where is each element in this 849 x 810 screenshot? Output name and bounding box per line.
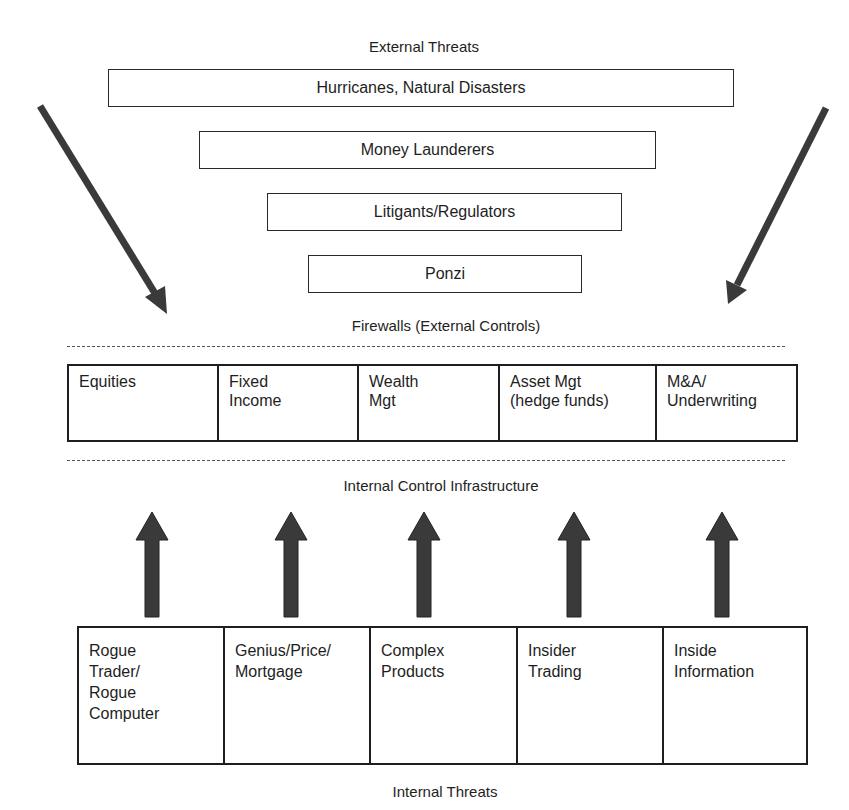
up-arrow-icon xyxy=(706,512,738,617)
diagonal-arrow-left-icon xyxy=(40,106,167,314)
up-arrow-icon xyxy=(275,512,307,617)
threat-box-litigants: Litigants/Regulators xyxy=(267,193,622,231)
internal-threat-insider-trading: Insider Trading xyxy=(518,628,664,763)
business-line-asset-mgt: Asset Mgt (hedge funds) xyxy=(500,366,657,440)
business-line-wealth-mgt: Wealth Mgt xyxy=(359,366,500,440)
firewall-dashed-line xyxy=(67,346,785,347)
threat-label: Money Launderers xyxy=(361,141,494,159)
internal-threat-genius-price: Genius/Price/ Mortgage xyxy=(225,628,371,763)
internal-control-label: Internal Control Infrastructure xyxy=(343,477,538,494)
threat-label: Litigants/Regulators xyxy=(374,203,515,221)
up-arrow-icon xyxy=(558,512,590,617)
firewalls-label: Firewalls (External Controls) xyxy=(352,317,540,334)
threat-label: Hurricanes, Natural Disasters xyxy=(317,79,526,97)
internal-threats-title: Internal Threats xyxy=(393,783,498,800)
business-lines-row: Equities Fixed Income Wealth Mgt Asset M… xyxy=(67,364,798,442)
business-line-equities: Equities xyxy=(69,366,219,440)
diagonal-arrow-right-icon xyxy=(726,108,826,304)
threat-box-hurricanes: Hurricanes, Natural Disasters xyxy=(108,69,734,107)
up-arrow-icon xyxy=(408,512,440,617)
threat-box-money-launderers: Money Launderers xyxy=(199,131,656,169)
internal-threat-complex-products: Complex Products xyxy=(371,628,518,763)
internal-threats-row: Rogue Trader/ Rogue Computer Genius/Pric… xyxy=(77,626,808,765)
up-arrow-icon xyxy=(136,512,168,617)
threat-label: Ponzi xyxy=(425,265,465,283)
internal-threat-rogue-trader: Rogue Trader/ Rogue Computer xyxy=(79,628,225,763)
internal-control-dashed-line xyxy=(67,460,785,461)
threat-box-ponzi: Ponzi xyxy=(308,255,582,293)
external-threats-title: External Threats xyxy=(369,38,479,55)
business-line-fixed-income: Fixed Income xyxy=(219,366,359,440)
business-line-ma-underwriting: M&A/ Underwriting xyxy=(657,366,796,440)
internal-threat-inside-information: Inside Information xyxy=(664,628,806,763)
